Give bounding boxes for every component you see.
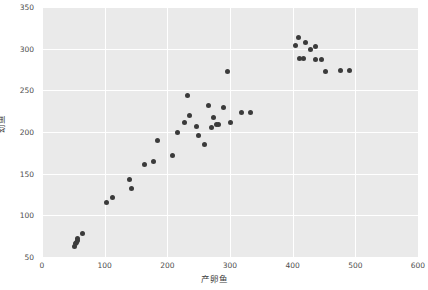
x-tick-label: 600	[398, 261, 428, 270]
scatter-point	[127, 177, 132, 182]
x-tick-label: 200	[147, 261, 187, 270]
scatter-point	[202, 142, 207, 147]
scatter-point	[293, 43, 298, 48]
scatter-chart-figure: 501001502002503003500100200300400500600 …	[0, 0, 428, 290]
scatter-point	[155, 138, 160, 143]
scatter-point	[170, 153, 175, 158]
scatter-point	[211, 115, 216, 120]
x-tick-label: 300	[210, 261, 250, 270]
scatter-point	[221, 105, 226, 110]
y-tick-label: 300	[0, 45, 34, 54]
scatter-point	[175, 130, 180, 135]
gridline-horizontal	[42, 132, 418, 133]
scatter-point	[182, 120, 187, 125]
scatter-point	[239, 110, 244, 115]
scatter-point	[187, 113, 192, 118]
scatter-point	[313, 57, 318, 62]
x-axis-label: 产卵鱼	[0, 272, 428, 284]
scatter-point	[228, 120, 233, 125]
scatter-point	[196, 133, 201, 138]
scatter-point	[110, 195, 115, 200]
gridline-horizontal	[42, 49, 418, 50]
gridline-horizontal	[42, 7, 418, 8]
scatter-point	[303, 40, 308, 45]
scatter-point	[104, 200, 109, 205]
scatter-point	[296, 35, 301, 40]
y-tick-label: 100	[0, 211, 34, 220]
scatter-point	[209, 125, 214, 130]
scatter-point	[319, 57, 324, 62]
gridline-horizontal	[42, 90, 418, 91]
scatter-point	[206, 103, 211, 108]
scatter-point	[194, 124, 199, 129]
scatter-point	[142, 162, 147, 167]
gridline-horizontal	[42, 215, 418, 216]
scatter-point	[308, 47, 313, 52]
x-tick-label: 500	[335, 261, 375, 270]
y-tick-label: 250	[0, 86, 34, 95]
scatter-point	[129, 186, 134, 191]
y-tick-label: 150	[0, 170, 34, 179]
y-tick-label: 350	[0, 3, 34, 12]
x-tick-label: 400	[273, 261, 313, 270]
scatter-point	[323, 69, 328, 74]
scatter-point	[151, 159, 156, 164]
scatter-point	[347, 68, 352, 73]
scatter-point	[301, 56, 306, 61]
plot-area	[42, 7, 418, 257]
scatter-point	[185, 93, 190, 98]
scatter-point	[225, 69, 230, 74]
y-axis-label: 幼鱼	[0, 115, 6, 133]
scatter-point	[338, 68, 343, 73]
x-tick-label: 0	[22, 261, 62, 270]
x-tick-label: 100	[85, 261, 125, 270]
gridline-horizontal	[42, 174, 418, 175]
scatter-point	[313, 44, 318, 49]
scatter-point	[80, 231, 85, 236]
scatter-point	[248, 110, 253, 115]
scatter-point	[216, 122, 221, 127]
